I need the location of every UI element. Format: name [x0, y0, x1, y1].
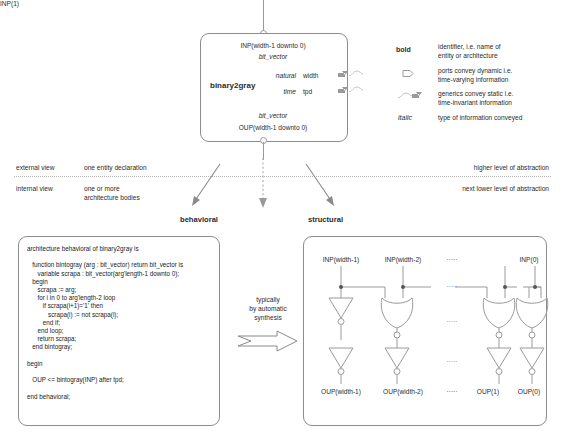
generic-squiggle-icon — [398, 90, 424, 102]
synthesis-block-arrow-icon — [237, 330, 299, 354]
schematic-ellipsis-bus: ····· — [434, 283, 470, 291]
legend-desc-bold-line1: identifier, i.e. name of — [438, 43, 501, 51]
schematic-ellipsis-gates: ····· — [434, 318, 470, 326]
behavioral-heading: behavioral — [180, 216, 218, 224]
external-abstraction-label: higher level of abstraction — [399, 164, 549, 172]
generic-1-name-label: tpd — [303, 88, 312, 96]
synthesis-note-line2: by automatic — [228, 305, 308, 313]
legend-desc-port-line1: ports convey dynamic i.e. — [438, 67, 512, 75]
branch-arrows — [190, 158, 370, 210]
legend-desc-port-line2: time-varying information — [438, 76, 508, 84]
port-flag-icon — [402, 69, 416, 78]
legend-desc-italic-line1: type of information conveyed — [438, 114, 522, 122]
generic-0-type-label: natural — [240, 72, 296, 80]
internal-abstraction-label: next lower level of abstraction — [389, 185, 549, 193]
external-view-desc: one entity declaration — [84, 164, 147, 172]
internal-view-desc-line2: architecture bodies — [84, 194, 140, 202]
structural-output-4-label: OUP(0) — [508, 388, 550, 396]
legend-desc-bold-line2: entity or architecture — [438, 52, 498, 60]
legend-key-bold: bold — [396, 46, 411, 54]
generic-1-squiggle-icon — [336, 84, 364, 96]
external-view-label: external view — [16, 164, 54, 172]
entity-input-type-label: bit_vector — [200, 53, 346, 61]
generic-0-squiggle-icon — [336, 68, 364, 80]
legend-desc-generic-line1: generics convey static i.e. — [438, 90, 514, 98]
structural-output-0-label: OUP(width-1) — [310, 388, 372, 396]
structural-heading: structural — [308, 216, 343, 224]
entity-top-connector-line — [263, 0, 264, 33]
legend-desc-generic-line2: time-invariant information — [438, 99, 512, 107]
structural-output-3-label: OUP(1) — [464, 388, 512, 396]
structural-output-1-label: OUP(width-2) — [372, 388, 434, 396]
structural-input-3-label: INP(1) — [0, 0, 19, 8]
synthesis-note-line3: synthesis — [228, 314, 308, 322]
behavioral-code: architecture behavioral of binary2gray i… — [27, 245, 215, 401]
generic-1-type-label: time — [240, 88, 296, 96]
legend-key-italic: italic — [398, 114, 412, 122]
entity-output-type-label: bit_vector — [200, 112, 346, 120]
schematic-ellipsis-inverters: ····· — [434, 358, 470, 366]
internal-view-label: internal view — [16, 185, 53, 193]
entity-input-port-label: INP(width-1 downto 0) — [200, 42, 346, 50]
generic-0-name-label: width — [303, 72, 318, 80]
internal-view-desc-line1: one or more — [84, 185, 120, 193]
synthesis-note-line1: typically — [228, 296, 308, 304]
entity-output-port-label: OUP(width-1 downto 0) — [200, 124, 346, 132]
